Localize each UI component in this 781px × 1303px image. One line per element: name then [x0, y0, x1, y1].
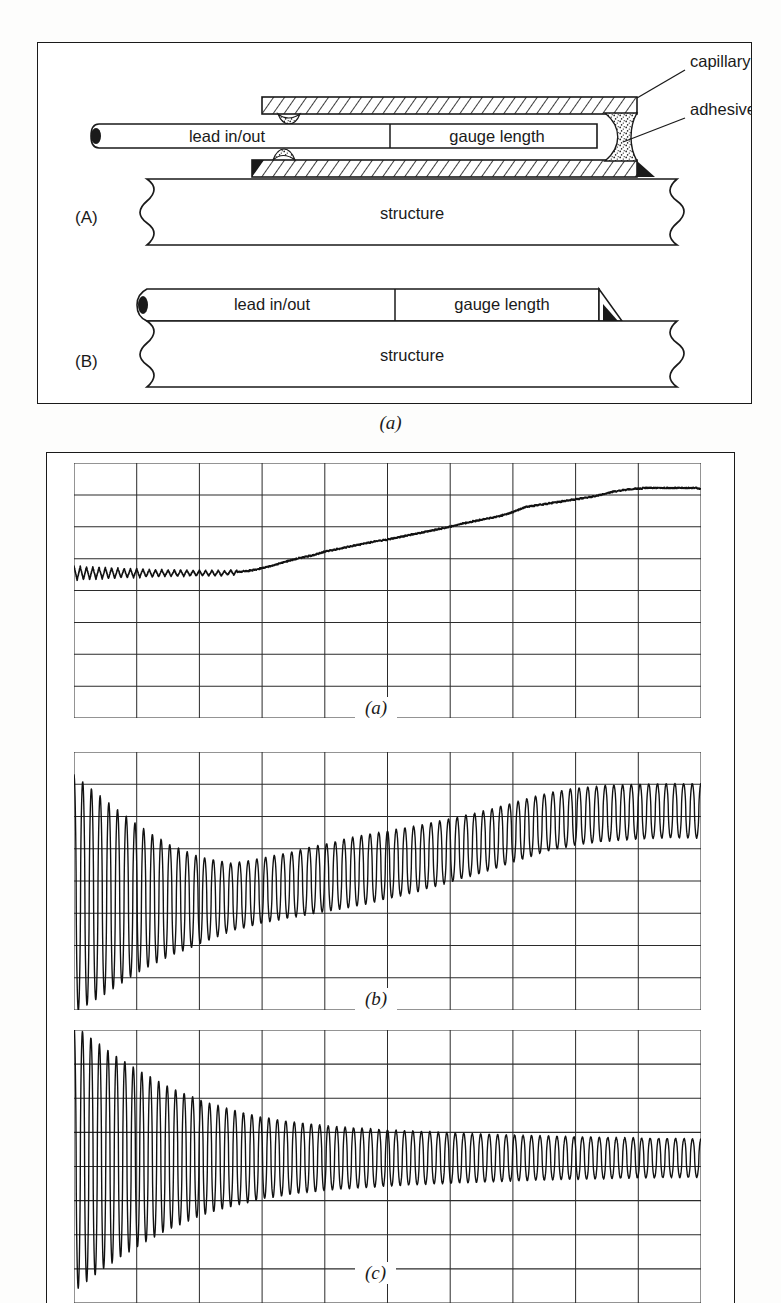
adhesive-dab-lower	[273, 149, 295, 160]
panel-label-A: (A)	[75, 208, 98, 227]
panel-label-B: (B)	[75, 352, 98, 371]
label-lead-in-out-A: lead in/out	[189, 127, 266, 145]
trace-a-label: (a)	[355, 697, 397, 719]
label-gauge-length-A: gauge length	[449, 127, 544, 145]
trace-b-label: (b)	[355, 988, 397, 1010]
page-background: lead in/out gauge length structure (A) c…	[0, 0, 781, 1303]
schematic-figure-caption: (a)	[0, 412, 781, 434]
oscilloscope-trace-b	[74, 752, 701, 1010]
label-structure-A: structure	[380, 204, 444, 222]
label-structure-B: structure	[380, 346, 444, 364]
capillary-tube-upper-wall	[262, 97, 637, 114]
adhesive-dab-upper	[278, 114, 300, 124]
oscilloscope-trace-a	[74, 463, 701, 718]
label-lead-in-out-B: lead in/out	[234, 295, 311, 313]
trace-c-label: (c)	[355, 1262, 396, 1284]
capillary-tube-lower-wall	[252, 160, 637, 177]
trace-b-svg	[74, 752, 701, 1010]
label-capillary-tube: capillary tube	[690, 52, 752, 70]
schematic-figure: lead in/out gauge length structure (A) c…	[37, 42, 752, 404]
label-gauge-length-B: gauge length	[454, 295, 549, 313]
label-adhesive: adhesive	[690, 100, 752, 118]
trace-a-svg	[74, 463, 701, 718]
callout-capillary-tube	[637, 70, 685, 98]
